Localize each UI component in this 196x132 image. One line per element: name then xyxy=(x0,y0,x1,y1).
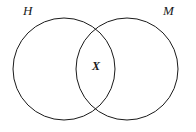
set-label-h: H xyxy=(23,4,32,17)
intersection-marker-x: X xyxy=(92,60,100,72)
venn-diagram: H M X xyxy=(0,0,196,132)
set-label-m: M xyxy=(163,4,174,17)
